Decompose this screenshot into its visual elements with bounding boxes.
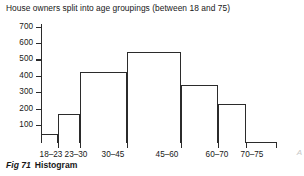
x-label-18-23: 18–23: [40, 150, 63, 159]
x-label-23-30: 23–30: [65, 150, 88, 159]
x-label-70-75: 70–75: [241, 150, 264, 159]
x-label-45-60: 45–60: [156, 150, 179, 159]
x-tick-mark: [246, 142, 247, 148]
histogram-figure: House owners split into age groupings (b…: [0, 0, 304, 176]
x-tick-mark: [127, 142, 128, 148]
figure-caption: Fig 71Histogram: [6, 160, 77, 170]
bar-70-75: [218, 104, 246, 143]
x-tick-mark: [181, 142, 182, 148]
bar-60-70: [181, 85, 218, 144]
bar-series: [0, 18, 304, 148]
x-tick-mark: [80, 142, 81, 148]
x-tick-mark: [276, 142, 277, 148]
chart-title: House owners split into age groupings (b…: [6, 3, 230, 13]
bar-18-23: [41, 134, 58, 144]
bar-30-45: [80, 72, 127, 144]
figure-caption-text: Histogram: [35, 160, 78, 170]
page-edge-artifact: A: [297, 148, 302, 157]
figure-number: Fig 71: [6, 160, 31, 170]
x-label-60-70: 60–70: [206, 150, 229, 159]
x-label-30-45: 30–45: [102, 150, 125, 159]
x-tick-mark: [218, 142, 219, 148]
bar-23-30: [58, 114, 80, 143]
bar-45-60: [127, 52, 181, 144]
plot-area: 700 600 500 400 300 200 100: [0, 18, 304, 148]
x-tick-mark: [58, 142, 59, 148]
